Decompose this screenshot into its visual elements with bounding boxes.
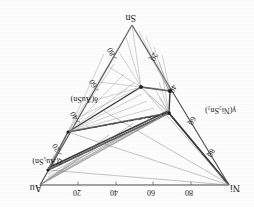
phase-label-delta-ausn: δ(AuSn) <box>71 95 98 103</box>
vertex-label-au: Au <box>30 183 42 193</box>
ternary-diagram-figure: .edge{stroke:#4a4a4a;stroke-width:1.1;fi… <box>0 0 254 207</box>
phase-label-zeta-au5sn: ζ(Au₅Sn) <box>32 157 62 165</box>
tick-top-40: 40 <box>110 188 118 196</box>
phase-label-gamma-ni3sn2: γ(Ni₃Sn₂) <box>205 106 236 114</box>
tick-top-80: 80 <box>185 188 193 196</box>
tick-top-20: 20 <box>73 188 81 196</box>
figure-page: .edge{stroke:#4a4a4a;stroke-width:1.1;fi… <box>0 0 254 207</box>
ternary-diagram-svg: .edge{stroke:#4a4a4a;stroke-width:1.1;fi… <box>0 0 254 207</box>
vertex-label-ni: Ni <box>230 183 240 193</box>
vertex-label-sn: Sn <box>125 13 136 23</box>
tick-top-60: 60 <box>147 188 155 196</box>
